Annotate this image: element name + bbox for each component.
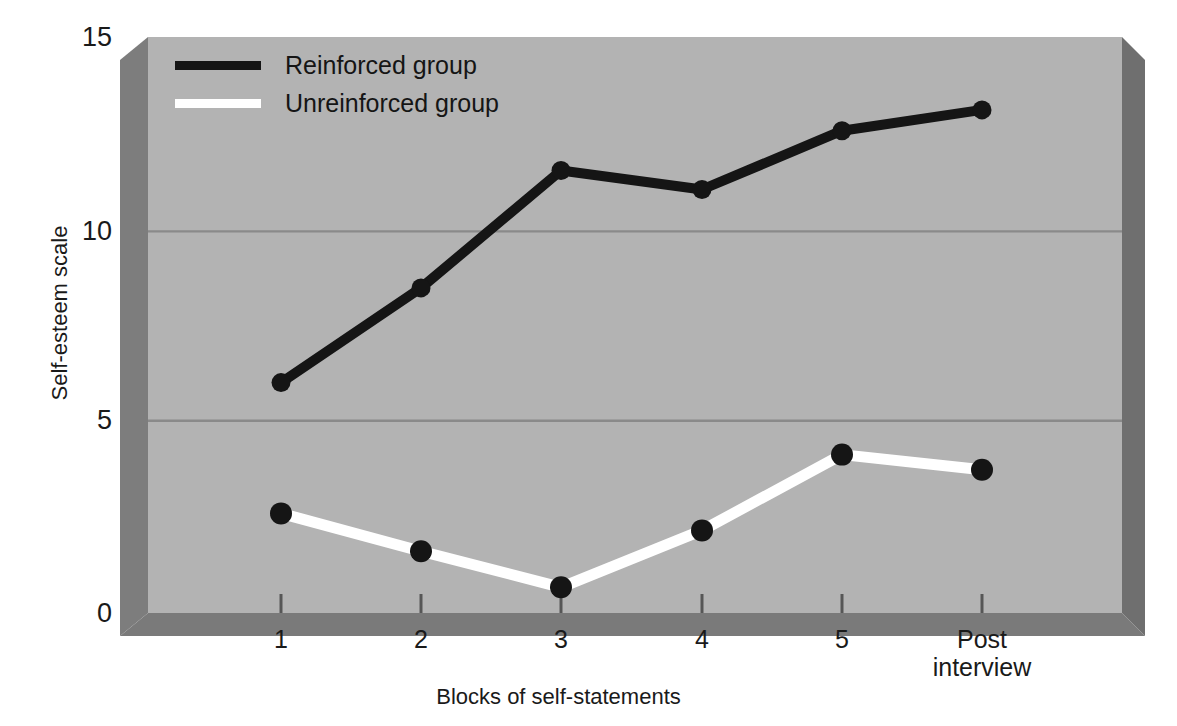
x-tick-3: 3 bbox=[481, 625, 641, 653]
legend-label-reinforced: Reinforced group bbox=[285, 53, 477, 78]
x-tick-5-line1: 5 bbox=[835, 625, 849, 653]
x-tick-post-interview: Post interview bbox=[902, 625, 1062, 681]
x-tick-4: 4 bbox=[622, 625, 782, 653]
x-tick-2-line1: 2 bbox=[414, 625, 428, 653]
x-axis-title: Blocks of self-statements bbox=[0, 684, 1177, 710]
x-tick-6-line1: Post bbox=[957, 625, 1007, 653]
legend-swatch-reinforced bbox=[175, 61, 261, 70]
legend-swatch-unreinforced bbox=[175, 99, 261, 108]
x-tick-6-line2: interview bbox=[902, 653, 1062, 681]
x-tick-2: 2 bbox=[341, 625, 501, 653]
chart-figure: Reinforced group Unreinforced group 15 1… bbox=[0, 0, 1177, 726]
plot-area bbox=[148, 37, 1122, 613]
x-tick-5: 5 bbox=[762, 625, 922, 653]
legend-item-reinforced: Reinforced group bbox=[175, 46, 499, 84]
plot-left-face bbox=[120, 37, 148, 636]
x-axis-title-text: Blocks of self-statements bbox=[436, 684, 681, 709]
x-tick-3-line1: 3 bbox=[554, 625, 568, 653]
legend-item-unreinforced: Unreinforced group bbox=[175, 84, 499, 122]
y-tick-0: 0 bbox=[52, 600, 112, 627]
plot-right-face bbox=[1122, 37, 1145, 636]
y-axis-title: Self-esteem scale bbox=[47, 163, 73, 463]
x-tick-1-line1: 1 bbox=[274, 625, 288, 653]
y-tick-15: 15 bbox=[52, 24, 112, 51]
chart-legend: Reinforced group Unreinforced group bbox=[175, 46, 499, 122]
legend-label-unreinforced: Unreinforced group bbox=[285, 91, 499, 116]
x-tick-1: 1 bbox=[201, 625, 361, 653]
x-tick-4-line1: 4 bbox=[695, 625, 709, 653]
